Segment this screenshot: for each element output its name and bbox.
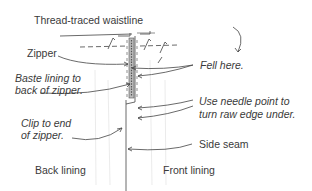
label-front-lining: Front lining (163, 164, 215, 176)
label-baste-line2: back of zipper. (15, 84, 83, 96)
label-back-lining: Back lining (35, 164, 86, 176)
label-baste-line1: Baste lining to (15, 72, 81, 84)
label-needle-line1: Use needle point to (199, 95, 289, 107)
label-clip-line1: Clip to end (21, 117, 71, 129)
label-waistline: Thread-traced waistline (34, 14, 143, 26)
label-clip-line2: of zipper. (21, 129, 64, 141)
label-needle-line2: turn raw edge under. (199, 108, 296, 120)
label-fell: Fell here. (200, 59, 244, 71)
label-side-seam: Side seam (199, 138, 249, 150)
label-zipper: Zipper (27, 47, 57, 59)
